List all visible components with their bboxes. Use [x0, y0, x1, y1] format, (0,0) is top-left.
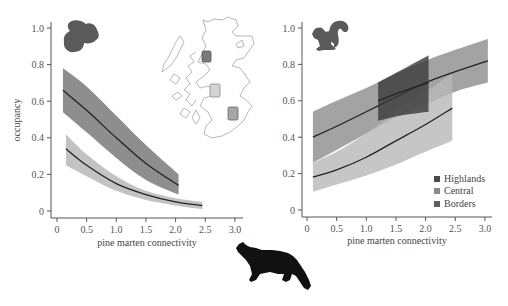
- left-y-ticks: 00.20.40.60.81.0: [32, 23, 52, 217]
- y-tick-label: 1.0: [283, 23, 296, 34]
- right-plot-area: [313, 39, 488, 192]
- legend: Highlands Central Borders: [434, 173, 485, 209]
- left-y-axis-label: occupancy: [11, 99, 22, 142]
- map-site-highlands: [202, 51, 211, 62]
- y-tick-label: 0.6: [283, 95, 296, 106]
- x-tick-label: 0: [55, 224, 60, 235]
- left-panel: 00.20.40.60.81.0 00.51.01.52.02.53.0 occ…: [11, 17, 254, 248]
- pine-marten-icon: [236, 242, 311, 290]
- map-site-borders: [228, 107, 238, 120]
- x-tick-label: 2.5: [199, 224, 212, 235]
- x-tick-label: 2.0: [419, 223, 432, 234]
- y-tick-label: 0.8: [32, 59, 45, 70]
- legend-swatch-borders: [434, 201, 440, 207]
- x-tick-label: 1.5: [140, 224, 153, 235]
- legend-label-highlands: Highlands: [444, 173, 485, 184]
- grey-squirrel-icon: [312, 21, 348, 51]
- legend-label-borders: Borders: [444, 198, 476, 209]
- y-tick-label: 0: [39, 206, 44, 217]
- legend-item-highlands: Highlands: [434, 173, 485, 184]
- y-tick-label: 0.2: [283, 168, 296, 179]
- upper-curve-dark-band-confidence-band: [63, 68, 179, 194]
- right-y-ticks: 00.20.40.60.81.0: [283, 23, 303, 216]
- x-tick-label: 3.0: [479, 223, 492, 234]
- right-panel: 00.20.40.60.81.0 00.51.01.52.02.53.0 pin…: [283, 21, 493, 246]
- y-tick-label: 0.6: [32, 96, 45, 107]
- x-tick-label: 0.5: [330, 223, 343, 234]
- x-tick-label: 3.0: [229, 224, 242, 235]
- x-tick-label: 1.5: [390, 223, 403, 234]
- left-plot-area: [63, 68, 202, 209]
- x-tick-label: 2.5: [449, 223, 462, 234]
- map-site-central: [210, 84, 220, 97]
- red-squirrel-icon: [64, 20, 99, 52]
- legend-swatch-central: [434, 188, 440, 194]
- legend-label-central: Central: [444, 185, 474, 196]
- y-tick-label: 0.2: [32, 169, 45, 180]
- y-tick-label: 1.0: [32, 23, 45, 34]
- x-tick-label: 2.0: [169, 224, 182, 235]
- scotland-map-icon: [162, 17, 254, 138]
- right-x-ticks: 00.51.01.52.02.53.0: [305, 217, 492, 234]
- left-x-axis-label: pine marten connectivity: [97, 237, 196, 248]
- x-tick-label: 1.0: [360, 223, 373, 234]
- left-x-ticks: 00.51.01.52.02.53.0: [55, 218, 242, 235]
- legend-item-borders: Borders: [434, 198, 476, 209]
- legend-item-central: Central: [434, 185, 474, 196]
- y-tick-label: 0: [290, 205, 295, 216]
- legend-swatch-highlands: [434, 176, 440, 182]
- x-tick-label: 0: [305, 223, 310, 234]
- x-tick-label: 0.5: [80, 224, 93, 235]
- highlands-confidence-band: [378, 55, 428, 121]
- y-tick-label: 0.8: [283, 59, 296, 70]
- figure: 00.20.40.60.81.0 00.51.01.52.02.53.0 occ…: [0, 0, 508, 306]
- y-tick-label: 0.4: [283, 132, 296, 143]
- y-tick-label: 0.4: [32, 132, 45, 143]
- right-x-axis-label: pine marten connectivity: [347, 235, 446, 246]
- x-tick-label: 1.0: [110, 224, 123, 235]
